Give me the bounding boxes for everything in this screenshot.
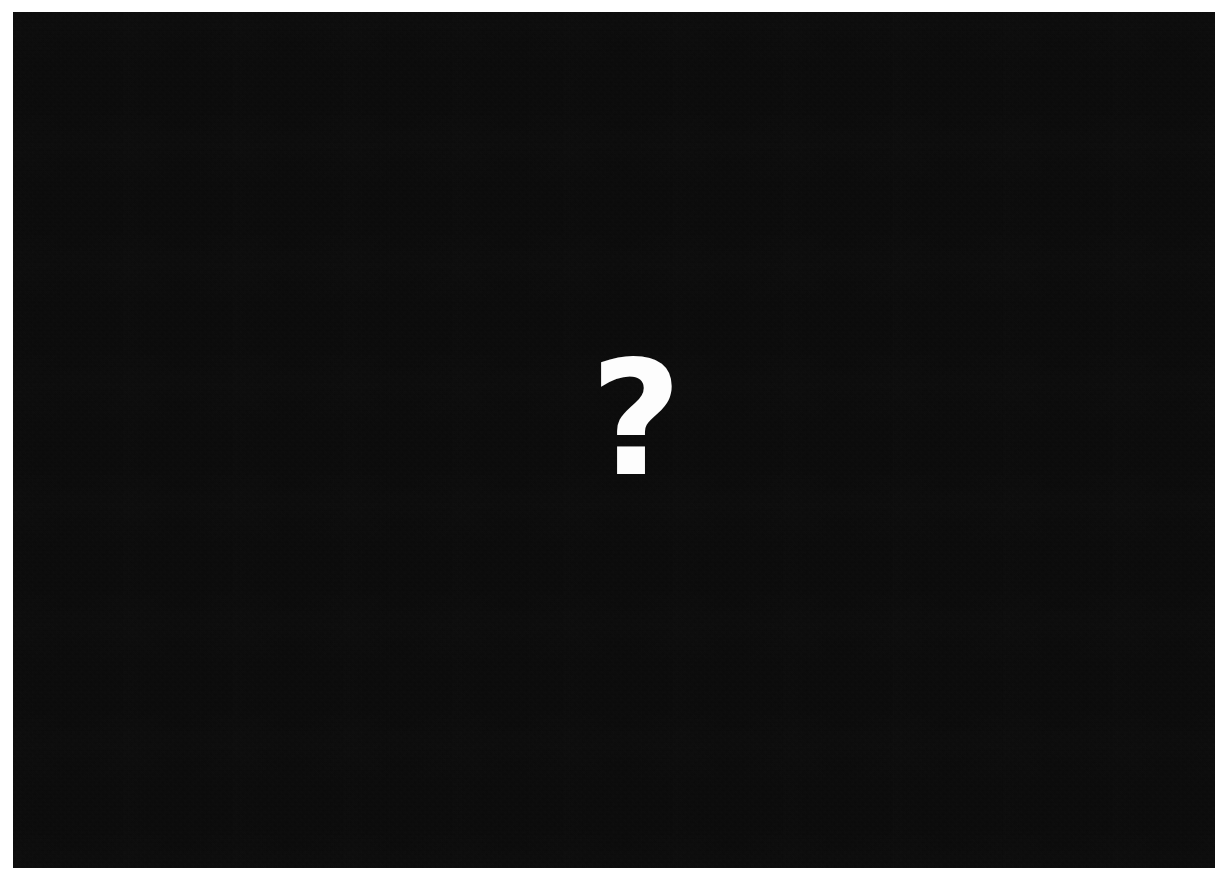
unavailable-content-panel: ? xyxy=(13,12,1215,868)
question-mark-icon: ? xyxy=(599,349,673,489)
page-canvas: ? xyxy=(0,0,1221,885)
question-mark-glyph: ? xyxy=(590,340,682,498)
